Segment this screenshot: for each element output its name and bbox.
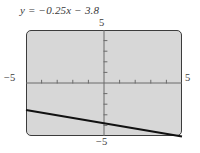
graph-figure: y = −0.25x − 3.8 5 −5 −5 5	[0, 0, 200, 153]
equation-label: y = −0.25x − 3.8	[20, 4, 99, 16]
coordinate-plane	[26, 30, 182, 136]
x-axis-max-label: 5	[185, 72, 190, 83]
y-axis-max-label: 5	[99, 17, 104, 28]
y-axis-min-label: −5	[96, 136, 107, 147]
x-axis-min-label: −5	[4, 72, 15, 83]
